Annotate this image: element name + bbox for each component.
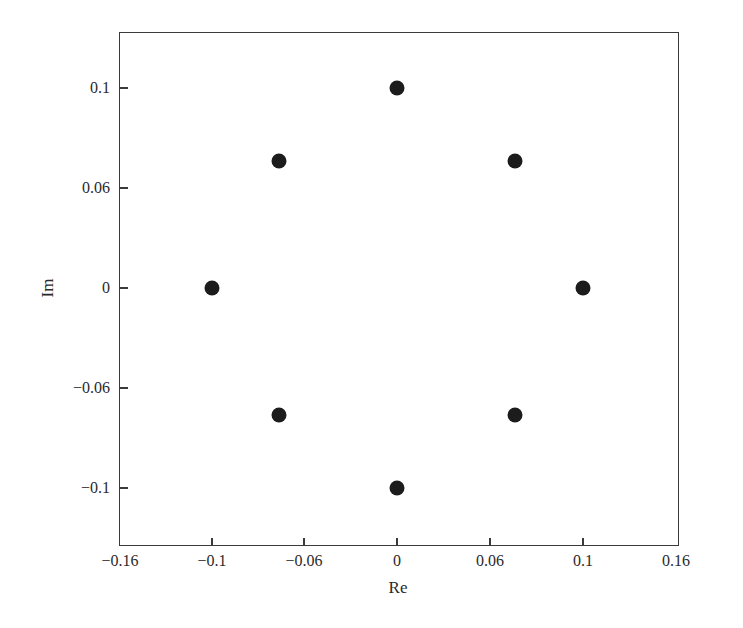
plot-area — [119, 32, 679, 546]
y-tick-label: 0.1 — [90, 79, 110, 97]
y-tick-mark — [120, 487, 128, 488]
x-axis-label: Re — [389, 578, 408, 598]
data-point-marker — [205, 281, 220, 296]
y-axis-label: Im — [38, 279, 58, 298]
x-tick-mark — [211, 538, 212, 546]
y-tick-label: −0.06 — [73, 379, 110, 397]
y-tick-label: 0.06 — [82, 179, 110, 197]
y-tick-mark — [120, 387, 128, 388]
y-tick-label: −0.1 — [81, 479, 110, 497]
x-tick-label: −0.1 — [197, 552, 226, 570]
x-tick-label: 0 — [393, 552, 401, 570]
x-tick-label: 0.16 — [662, 552, 690, 570]
x-tick-label: −0.16 — [101, 552, 138, 570]
x-tick-label: −0.06 — [285, 552, 322, 570]
x-tick-label: 0.1 — [573, 552, 593, 570]
pole-zero-figure: −0.16−0.1−0.0600.060.10.16 0.10.060−0.06… — [0, 0, 743, 628]
data-point-marker — [272, 154, 287, 169]
y-tick-label: 0 — [102, 279, 110, 297]
data-point-marker — [576, 281, 591, 296]
data-point-marker — [390, 81, 405, 96]
data-point-marker — [272, 407, 287, 422]
x-tick-mark — [396, 538, 397, 546]
data-point-marker — [390, 481, 405, 496]
x-tick-mark — [582, 538, 583, 546]
x-tick-mark — [489, 538, 490, 546]
y-tick-mark — [120, 187, 128, 188]
y-tick-mark — [120, 287, 128, 288]
data-point-marker — [507, 407, 522, 422]
y-tick-mark — [120, 87, 128, 88]
x-tick-label: 0.06 — [476, 552, 504, 570]
data-point-marker — [507, 154, 522, 169]
x-tick-mark — [303, 538, 304, 546]
